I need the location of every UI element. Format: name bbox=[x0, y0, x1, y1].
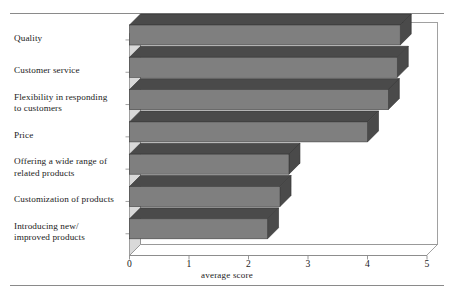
x-axis-title-text: average score bbox=[201, 270, 253, 280]
category-label-line: Flexibility in responding bbox=[14, 92, 132, 103]
category-label-line: Introducing new/ bbox=[14, 221, 132, 232]
category-label-line: related products bbox=[14, 168, 132, 179]
category-label-line: Customer service bbox=[14, 65, 132, 76]
category-label-5: Offering a wide range ofrelated products bbox=[14, 156, 132, 178]
x-tick-label-4: 4 bbox=[358, 258, 378, 269]
x-tick-label-2: 2 bbox=[239, 258, 259, 269]
category-label-3: Flexibility in respondingto customers bbox=[14, 92, 132, 114]
x-tick-label-5: 5 bbox=[417, 258, 437, 269]
x-axis-title: average score bbox=[0, 270, 454, 280]
category-label-1: Quality bbox=[14, 33, 132, 44]
category-axis-labels: QualityCustomer serviceFlexibility in re… bbox=[0, 18, 126, 256]
category-label-4: Price bbox=[14, 130, 132, 141]
chart-page: QualityCustomer serviceFlexibility in re… bbox=[0, 0, 454, 295]
category-label-line: Offering a wide range of bbox=[14, 156, 132, 167]
category-label-line: improved products bbox=[14, 232, 132, 243]
category-label-line: Customization of products bbox=[14, 194, 132, 205]
x-tick-label-0: 0 bbox=[120, 258, 140, 269]
x-tick-label-1: 1 bbox=[179, 258, 199, 269]
category-label-2: Customer service bbox=[14, 65, 132, 76]
category-label-line: to customers bbox=[14, 103, 132, 114]
category-label-7: Introducing new/improved products bbox=[14, 221, 132, 243]
category-label-line: Quality bbox=[14, 33, 132, 44]
x-tick-label-3: 3 bbox=[298, 258, 318, 269]
category-label-6: Customization of products bbox=[14, 194, 132, 205]
category-label-line: Price bbox=[14, 130, 132, 141]
